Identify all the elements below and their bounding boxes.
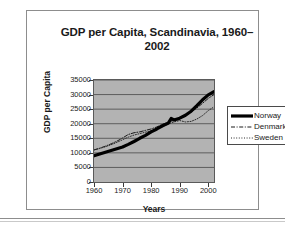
- y-tick-label: 35000: [57, 76, 91, 84]
- y-tick-label: 15000: [57, 134, 91, 142]
- x-axis-tick-labels: 19601970198019902000: [83, 186, 233, 198]
- legend-label: Norway: [254, 111, 281, 121]
- chart-legend: NorwayDenmarkSweden: [227, 106, 285, 145]
- y-axis-tick-labels: 05000100001500020000250003000035000: [57, 73, 91, 189]
- x-tick-label: 1980: [139, 186, 163, 195]
- legend-item[interactable]: Denmark: [230, 121, 285, 132]
- x-tick-label: 1970: [111, 186, 135, 195]
- page-divider-rule-secondary: [0, 221, 285, 222]
- page-divider-rule: [0, 218, 285, 219]
- legend-label: Denmark: [254, 122, 285, 132]
- x-tick-label: 1960: [82, 186, 106, 195]
- legend-swatch-icon: [230, 111, 254, 121]
- x-axis-title: Years: [93, 204, 215, 214]
- legend-item[interactable]: Norway: [230, 110, 285, 121]
- y-tick-label: 5000: [57, 163, 91, 171]
- series-canvas: [94, 80, 214, 182]
- legend-label: Sweden: [254, 133, 283, 143]
- y-tick-label: 10000: [57, 149, 91, 157]
- y-tick-label: 25000: [57, 105, 91, 113]
- x-tick-label: 1990: [168, 186, 192, 195]
- plot-area: [93, 79, 215, 183]
- chart-title-line-1: GDP per Capita, Scandinavia, 1960–: [61, 26, 254, 38]
- legend-swatch-icon: [230, 122, 254, 132]
- figure-container: GDP per Capita, Scandinavia, 1960– 2002 …: [0, 0, 285, 227]
- y-tick-label: 0: [57, 178, 91, 186]
- chart-frame: GDP per Capita, Scandinavia, 1960– 2002 …: [26, 10, 259, 210]
- y-axis-title: GDP per Capita: [42, 66, 52, 138]
- chart-title-line-2: 2002: [144, 40, 169, 52]
- y-tick-label: 20000: [57, 120, 91, 128]
- series-line-denmark: [94, 95, 214, 150]
- y-tick-label: 30000: [57, 91, 91, 99]
- chart-title: GDP per Capita, Scandinavia, 1960– 2002: [57, 25, 257, 53]
- x-tick-label: 2000: [196, 186, 220, 195]
- legend-swatch-icon: [230, 133, 254, 143]
- legend-item[interactable]: Sweden: [230, 132, 285, 143]
